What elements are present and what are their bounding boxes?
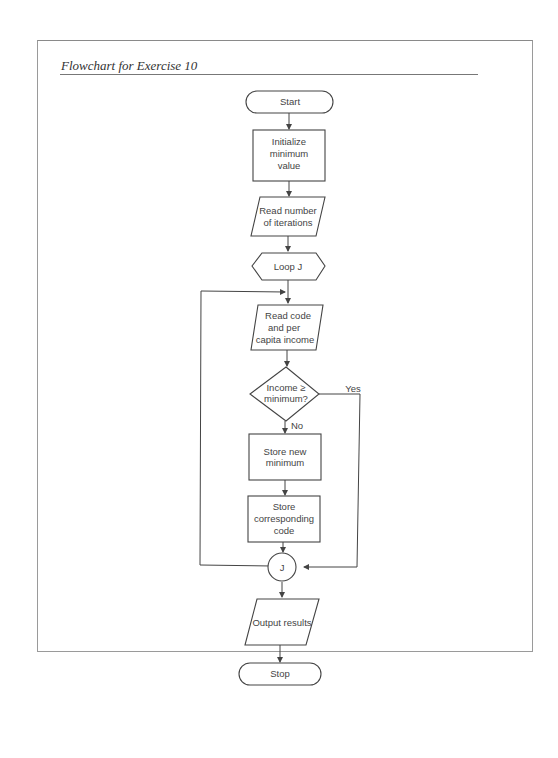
store-code-line-2: corresponding	[254, 513, 314, 524]
read-code-io: Read code and per capita income	[251, 305, 323, 350]
store-code-line-3: code	[274, 525, 295, 536]
stop-terminal: Stop	[239, 663, 321, 685]
income-decision: Income ≥ minimum?	[250, 367, 319, 421]
init-line-2: minimum	[270, 148, 309, 159]
output-label: Output results	[252, 617, 311, 628]
start-label: Start	[280, 96, 300, 107]
stop-label: Stop	[270, 668, 290, 679]
store-minimum-process: Store new minimum	[249, 434, 321, 480]
connector-j: J	[268, 553, 296, 581]
read-iterations-io: Read number of iterations	[251, 197, 325, 236]
store-min-line-1: Store new	[264, 446, 307, 457]
no-label: No	[291, 420, 303, 431]
initialize-process: Initialize minimum value	[253, 130, 325, 181]
read-iter-line-1: Read number	[259, 205, 317, 216]
start-terminal: Start	[246, 91, 333, 113]
loop-preparation: Loop J	[252, 253, 325, 280]
read-iter-line-2: of iterations	[263, 217, 312, 228]
store-min-line-2: minimum	[266, 457, 305, 468]
connector-label: J	[280, 562, 285, 573]
loop-label: Loop J	[274, 261, 303, 272]
init-line-3: value	[278, 160, 301, 171]
store-code-line-1: Store	[273, 501, 296, 512]
init-line-1: Initialize	[272, 136, 306, 147]
read-code-line-3: capita income	[256, 334, 315, 345]
store-code-process: Store corresponding code	[248, 496, 320, 542]
read-code-line-2: and per	[268, 322, 300, 333]
read-code-line-1: Read code	[265, 310, 311, 321]
output-results-io: Output results	[245, 599, 319, 645]
decision-line-2: minimum?	[264, 393, 308, 404]
decision-line-1: Income ≥	[266, 382, 305, 393]
flowchart: Start Initialize minimum value Read numb…	[0, 0, 558, 758]
yes-label: Yes	[345, 383, 361, 394]
